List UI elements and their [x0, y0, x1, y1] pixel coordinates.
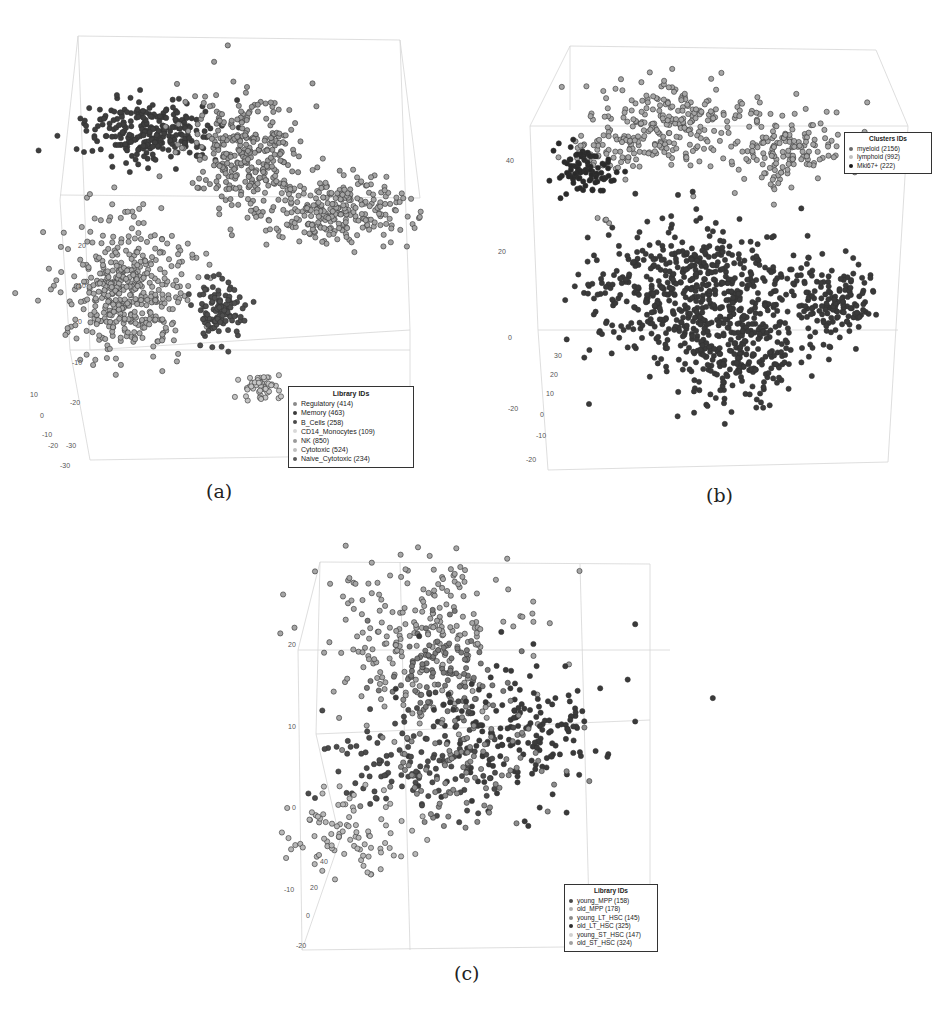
legend-dot-icon: [293, 448, 297, 452]
panel-a-3d-scatter: 20 10 0 -10 -20 10 0 -10 -20 -30 -30 Lib…: [0, 0, 468, 470]
tick: 10: [30, 391, 38, 398]
tick: 20: [78, 242, 86, 249]
legend-dot-icon: [569, 933, 573, 937]
tick: 20: [288, 641, 296, 648]
legend-item: NK (850): [293, 436, 409, 445]
legend-item: myeloid (2156): [849, 145, 927, 154]
legend-dot-icon: [569, 941, 573, 945]
tick: 0: [306, 912, 310, 919]
legend-item: Memory (463): [293, 408, 409, 417]
tick: -10: [284, 886, 294, 893]
tick: 10: [546, 390, 554, 397]
tick: 0: [508, 334, 512, 341]
legend-item: CD14_Monocytes (109): [293, 427, 409, 436]
tick: -30: [60, 462, 70, 469]
caption-a: (a): [206, 480, 232, 502]
tick: 20: [310, 884, 318, 891]
legend-item: Cytotoxic (524): [293, 445, 409, 454]
legend-item: old_ST_HSC (324): [569, 939, 653, 948]
tick: 0: [78, 318, 82, 325]
caption-c: (c): [454, 962, 479, 984]
tick: 10: [78, 282, 86, 289]
legend-dot-icon: [849, 164, 853, 168]
legend-dot-icon: [293, 420, 297, 424]
legend-item: Naive_Cytotoxic (234): [293, 454, 409, 463]
legend-item: B_Cells (258): [293, 418, 409, 427]
tick: -20: [48, 442, 58, 449]
panel-c-3d-scatter: 20 10 0 -10 40 20 0 -20 Library IDs youn…: [240, 520, 680, 960]
legend-title: Library IDs: [569, 887, 653, 896]
tick: 0: [40, 412, 44, 419]
legend-dot-icon: [293, 402, 297, 406]
panel-b-points: [547, 66, 879, 426]
panel-b-legend: Clusters IDs myeloid (2156) lymphoid (99…: [844, 132, 932, 174]
legend-item: old_MPP (178): [569, 905, 653, 914]
tick: 20: [550, 371, 558, 378]
caption-b: (b): [706, 484, 733, 506]
tick: -20: [508, 405, 518, 412]
legend-title: Library IDs: [293, 389, 409, 398]
tick: 20: [498, 248, 506, 255]
panel-a-legend: Library IDs Regulatory (414) Memory (463…: [288, 386, 414, 468]
panel-c-legend: Library IDs young_MPP (158) old_MPP (178…: [564, 884, 658, 952]
legend-dot-icon: [293, 457, 297, 461]
legend-item: old_LT_HSC (325): [569, 922, 653, 931]
tick: -30: [66, 442, 76, 449]
panel-b-box-frame: [468, 0, 936, 480]
legend-item: Mki67+ (222): [849, 162, 927, 171]
tick: 40: [506, 157, 514, 164]
legend-dot-icon: [569, 907, 573, 911]
tick: -20: [296, 942, 306, 949]
legend-dot-icon: [569, 924, 573, 928]
legend-item: young_LT_HSC (145): [569, 914, 653, 923]
tick: 0: [292, 804, 296, 811]
legend-item: young_MPP (158): [569, 897, 653, 906]
tick: -20: [526, 456, 536, 463]
legend-dot-icon: [293, 411, 297, 415]
tick: 30: [554, 352, 562, 359]
tick: -20: [70, 399, 80, 406]
legend-dot-icon: [849, 155, 853, 159]
tick: 40: [320, 858, 328, 865]
legend-dot-icon: [293, 439, 297, 443]
legend-item: Regulatory (414): [293, 399, 409, 408]
legend-dot-icon: [293, 429, 297, 433]
tick: 0: [540, 411, 544, 418]
legend-item: lymphoid (992): [849, 153, 927, 162]
legend-title: Clusters IDs: [849, 135, 927, 144]
tick: -10: [42, 431, 52, 438]
legend-dot-icon: [569, 899, 573, 903]
tick: -10: [72, 359, 82, 366]
panel-b-3d-scatter: 40 20 0 -20 30 20 10 0 -10 -20 Clusters …: [468, 0, 936, 480]
legend-item: young_ST_HSC (147): [569, 931, 653, 940]
panel-a-points: [13, 43, 424, 403]
tick: -10: [536, 432, 546, 439]
legend-dot-icon: [849, 147, 853, 151]
tick: 10: [288, 723, 296, 730]
legend-dot-icon: [569, 916, 573, 920]
